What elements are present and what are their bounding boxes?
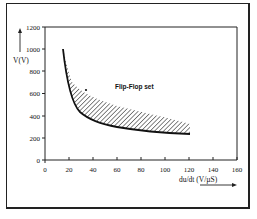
x-axis: 0 20 40 60 80 100 120 140 160 du/dt (V/µ… — [43, 157, 243, 187]
x-tick-label: 60 — [114, 166, 122, 174]
x-tick-label: 140 — [208, 166, 219, 174]
x-tick-label: 0 — [43, 166, 47, 174]
x-tick-label: 80 — [138, 166, 146, 174]
flip-flop-region — [63, 49, 190, 134]
x-tick-label: 20 — [66, 166, 74, 174]
y-tick-label: 600 — [30, 90, 41, 98]
x-tick-label: 100 — [160, 166, 171, 174]
y-tick-label: 800 — [30, 68, 41, 76]
marker-dot — [85, 89, 87, 91]
x-tick-label: 120 — [184, 166, 195, 174]
x-axis-label: du/dt (V/µS) — [179, 175, 218, 184]
y-tick-label: 1200 — [26, 24, 41, 32]
y-arrow-head-icon — [18, 28, 22, 33]
chart: 1200 1000 800 600 400 200 0 V(V) 0 20 40… — [0, 0, 257, 219]
y-axis-label: V(V) — [13, 56, 29, 65]
y-tick-label: 200 — [30, 135, 41, 143]
region-annotation: Flip-Flop set — [115, 83, 154, 91]
x-tick-label: 160 — [232, 166, 243, 174]
y-tick-label: 0 — [37, 157, 41, 165]
y-tick-label: 400 — [30, 113, 41, 121]
y-tick-label: 1000 — [26, 46, 41, 54]
x-arrow-head-icon — [232, 183, 237, 187]
y-axis: 1200 1000 800 600 400 200 0 V(V) — [13, 24, 45, 165]
x-tick-label: 40 — [90, 166, 98, 174]
